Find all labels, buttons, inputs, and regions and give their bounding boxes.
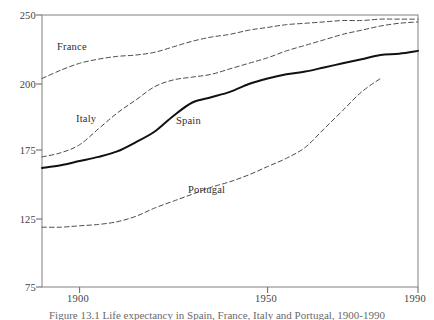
figure-container: 250 200 175 125 75 1900 1950 1990 France…: [0, 0, 434, 320]
figure-caption: Figure 13.1 Life expectancy in Spain, Fr…: [0, 309, 434, 320]
series-label-spain: Spain: [176, 115, 201, 126]
series-label-portugal: Portugal: [188, 184, 225, 195]
series-label-italy: Italy: [76, 113, 96, 124]
y-tick-label-125: 125: [8, 214, 36, 225]
series-line-portugal: [42, 78, 380, 227]
axes-frame: [42, 15, 418, 287]
y-tick-label-250: 250: [8, 10, 36, 21]
y-tick-label-175: 175: [8, 145, 36, 156]
series-line-france: [42, 19, 418, 78]
series-label-france: France: [57, 41, 87, 52]
tick-marks: [36, 15, 418, 293]
x-tick-label-1950: 1950: [255, 293, 277, 304]
x-tick-label-1990: 1990: [404, 293, 426, 304]
series-paths: [42, 19, 418, 227]
y-tick-label-75: 75: [8, 282, 36, 293]
y-tick-label-200: 200: [8, 79, 36, 90]
series-line-italy: [42, 22, 418, 157]
x-tick-label-1900: 1900: [67, 293, 89, 304]
